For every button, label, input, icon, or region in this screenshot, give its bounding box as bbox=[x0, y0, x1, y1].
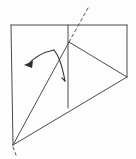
figure-container: Paper folding diagram Rectangular sheet … bbox=[0, 0, 136, 159]
flap-upper-edge bbox=[69, 42, 127, 77]
fold-crease-dashed-stub bbox=[13, 147, 16, 155]
fold-direction-arc-lower bbox=[54, 50, 65, 81]
sheet-base-diagonal-edge bbox=[13, 77, 127, 145]
folding-diagram-svg bbox=[0, 0, 136, 159]
fold-direction-arrow-head bbox=[24, 61, 33, 68]
diagonal-crease-line bbox=[13, 42, 69, 145]
sheet-left-edge bbox=[11, 25, 13, 145]
